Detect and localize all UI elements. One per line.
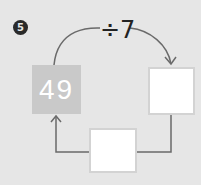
problem-number-badge: 5: [13, 20, 28, 35]
operation-label: ÷7: [100, 16, 135, 44]
answer-box-2[interactable]: [89, 128, 137, 173]
start-value-box: 49: [32, 65, 81, 114]
answer-box-1[interactable]: [148, 67, 195, 115]
